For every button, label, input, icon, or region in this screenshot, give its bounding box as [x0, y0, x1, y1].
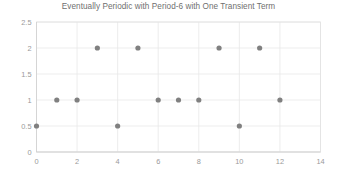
data-point: [257, 45, 262, 50]
axis-lines-group: [37, 22, 321, 152]
x-axis-tick-label: 14: [316, 157, 324, 166]
data-point: [196, 97, 201, 102]
data-point: [277, 97, 282, 102]
x-axis-tick-label: 10: [235, 157, 243, 166]
data-point: [95, 45, 100, 50]
y-axis-tick-label: 0.5: [21, 122, 31, 131]
x-axis-tick-label: 4: [116, 157, 120, 166]
data-point: [216, 45, 221, 50]
data-point: [135, 45, 140, 50]
x-axis-tick-label: 8: [197, 157, 201, 166]
gridlines-group: [37, 22, 321, 152]
y-axis-tick-label: 2.5: [21, 18, 31, 27]
y-axis-tick-label: 1: [27, 96, 31, 105]
data-point: [176, 97, 181, 102]
x-axis-tick-label: 12: [276, 157, 284, 166]
plot-border: [37, 22, 321, 152]
data-point: [115, 123, 120, 128]
y-axis-tick-labels: 00.511.522.5: [21, 18, 31, 157]
y-axis-tick-label: 1.5: [21, 70, 31, 79]
chart-plot-area: 00.511.522.5 02468101214: [0, 0, 337, 178]
x-axis-tick-label: 0: [34, 157, 38, 166]
x-axis-tick-labels: 02468101214: [34, 157, 324, 166]
data-point: [237, 123, 242, 128]
data-point: [74, 97, 79, 102]
data-point: [156, 97, 161, 102]
data-point: [34, 123, 39, 128]
y-axis-tick-label: 0: [27, 148, 31, 157]
data-point: [54, 97, 59, 102]
y-axis-tick-label: 2: [27, 44, 31, 53]
x-axis-tick-label: 2: [75, 157, 79, 166]
chart-container: Eventually Periodic with Period-6 with O…: [0, 0, 337, 178]
x-axis-tick-label: 6: [156, 157, 160, 166]
